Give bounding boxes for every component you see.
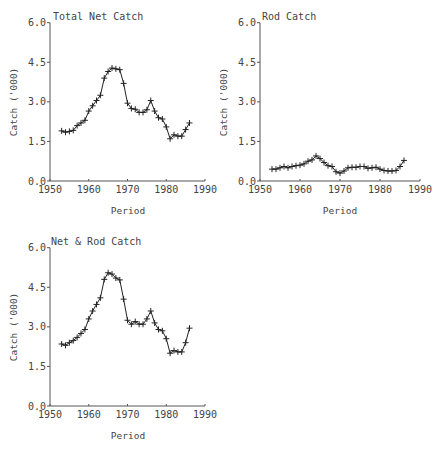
plus-marker-icon (297, 162, 303, 168)
plus-marker-icon (301, 161, 307, 167)
plus-marker-icon (167, 350, 173, 356)
plus-marker-icon (59, 341, 65, 347)
plus-marker-icon (305, 158, 311, 164)
plus-marker-icon (101, 75, 107, 81)
plus-marker-icon (132, 319, 138, 325)
plus-marker-icon (156, 115, 162, 121)
plus-marker-icon (97, 295, 103, 301)
plus-marker-icon (273, 166, 279, 172)
plus-marker-icon (113, 66, 119, 72)
plus-marker-icon (63, 129, 69, 135)
x-tick-label: 1990 (193, 409, 217, 420)
x-axis-label: Period (111, 430, 145, 441)
y-tick-label: 3.0 (238, 96, 256, 107)
plus-marker-icon (281, 163, 287, 169)
chart-svg: Total Net Catch Catch ('000) Period 0.01… (0, 0, 220, 225)
axes: 0.01.53.04.56.019501960197019801990 (238, 17, 432, 195)
plus-marker-icon (381, 167, 387, 173)
x-tick-label: 1980 (154, 184, 178, 195)
y-tick-label: 6.0 (238, 17, 256, 28)
plus-marker-icon (66, 128, 72, 134)
y-axis-label: Catch ('000) (8, 293, 19, 362)
plus-marker-icon (121, 80, 127, 86)
plus-marker-icon (78, 120, 84, 126)
plus-marker-icon (59, 128, 65, 134)
plus-marker-icon (289, 163, 295, 169)
plus-marker-icon (183, 340, 189, 346)
plus-marker-icon (152, 320, 158, 326)
plus-marker-icon (159, 328, 165, 334)
chart-title: Total Net Catch (53, 11, 143, 22)
plus-marker-icon (63, 342, 69, 348)
x-tick-label: 1950 (38, 184, 62, 195)
plus-marker-icon (86, 316, 92, 322)
plus-marker-icon (163, 124, 169, 130)
y-tick-label: 3.0 (28, 321, 46, 332)
x-tick-label: 1980 (154, 409, 178, 420)
plus-marker-icon (179, 349, 185, 355)
plus-marker-icon (140, 109, 146, 115)
chart-title: Net & Rod Catch (51, 236, 141, 247)
plus-marker-icon (148, 308, 154, 314)
x-tick-label: 1990 (193, 184, 217, 195)
plus-marker-icon (156, 326, 162, 332)
x-tick-label: 1970 (328, 184, 352, 195)
plus-marker-icon (152, 108, 158, 114)
plus-marker-icon (401, 157, 407, 163)
plus-marker-icon (353, 164, 359, 170)
y-axis-label: Catch ('000) (220, 68, 229, 137)
plus-marker-icon (82, 117, 88, 123)
plus-marker-icon (187, 325, 193, 331)
plus-marker-icon (90, 308, 96, 314)
x-tick-label: 1980 (368, 184, 392, 195)
plus-marker-icon (389, 168, 395, 174)
y-tick-label: 4.5 (28, 57, 46, 68)
x-tick-label: 1960 (288, 184, 312, 195)
plus-marker-icon (163, 336, 169, 342)
y-tick-label: 1.5 (28, 361, 46, 372)
chart-svg: Rod Catch Catch ('000) Period 0.01.53.04… (220, 0, 436, 225)
y-tick-label: 6.0 (28, 242, 46, 253)
plus-marker-icon (117, 67, 123, 73)
chart-net-and-rod-catch: Net & Rod Catch Catch ('000) Period 0.01… (0, 225, 220, 452)
plus-marker-icon (179, 133, 185, 139)
y-tick-label: 4.5 (28, 282, 46, 293)
x-tick-label: 1950 (38, 409, 62, 420)
axes: 0.01.53.04.56.019501960197019801990 (28, 17, 217, 195)
x-tick-label: 1970 (115, 184, 139, 195)
plus-marker-icon (105, 270, 111, 276)
x-axis-label: Period (111, 205, 145, 216)
y-tick-label: 1.5 (238, 136, 256, 147)
plus-marker-icon (369, 165, 375, 171)
plus-marker-icon (101, 276, 107, 282)
plus-marker-icon (159, 116, 165, 122)
data-series (269, 153, 407, 176)
y-axis-label: Catch ('000) (8, 68, 19, 137)
plus-marker-icon (148, 98, 154, 104)
x-tick-label: 1960 (77, 184, 101, 195)
chart-total-net-catch: Total Net Catch Catch ('000) Period 0.01… (0, 0, 220, 225)
series-line (62, 273, 190, 353)
plus-marker-icon (187, 120, 193, 126)
x-tick-label: 1950 (248, 184, 272, 195)
plus-marker-icon (144, 107, 150, 113)
y-tick-label: 1.5 (28, 136, 46, 147)
chart-title: Rod Catch (262, 11, 316, 22)
plus-marker-icon (293, 163, 299, 169)
plus-marker-icon (277, 165, 283, 171)
plus-marker-icon (285, 165, 291, 171)
data-series (59, 65, 193, 142)
x-axis-label: Period (323, 205, 357, 216)
x-tick-label: 1960 (77, 409, 101, 420)
x-tick-label: 1990 (408, 184, 432, 195)
chart-rod-catch: Rod Catch Catch ('000) Period 0.01.53.04… (220, 0, 436, 225)
x-tick-label: 1970 (115, 409, 139, 420)
y-tick-label: 3.0 (28, 96, 46, 107)
y-tick-label: 4.5 (238, 57, 256, 68)
data-series (59, 270, 193, 356)
plus-marker-icon (171, 348, 177, 354)
plus-marker-icon (183, 127, 189, 133)
chart-svg: Net & Rod Catch Catch ('000) Period 0.01… (0, 225, 220, 452)
y-tick-label: 6.0 (28, 17, 46, 28)
plus-marker-icon (121, 296, 127, 302)
